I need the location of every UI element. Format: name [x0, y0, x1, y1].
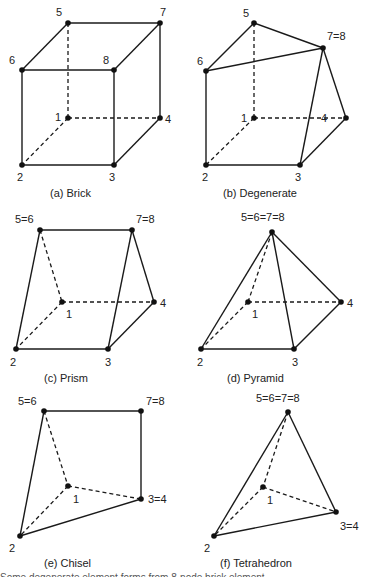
node-3 [111, 162, 117, 168]
label-5-6: 5=6 [15, 213, 34, 225]
element-forms-diagram: 5 7 6 8 1 4 2 3 (a) Brick 5 7=8 6 1 4 2 [0, 0, 366, 582]
label-2: 2 [10, 356, 16, 368]
panel-prism: 5=6 7=8 1 4 2 3 (c) Prism [10, 213, 166, 384]
label-5-6: 5=6 [18, 395, 37, 407]
node-4 [157, 115, 163, 121]
label-2: 2 [9, 542, 15, 554]
label-2: 2 [202, 171, 208, 183]
label-7: 7 [160, 6, 166, 18]
node-6 [19, 67, 25, 73]
caption-degenerate: (b) Degenerate [223, 187, 297, 199]
label-3: 3 [295, 171, 301, 183]
label-7-8: 7=8 [327, 30, 346, 42]
panel-tetrahedron: 5=6=7=8 1 3=4 2 (f) Tetrahedron [204, 392, 359, 569]
label-2: 2 [204, 542, 210, 554]
label-4: 4 [160, 297, 166, 309]
label-3: 3 [109, 171, 115, 183]
label-8: 8 [103, 54, 109, 66]
label-6: 6 [197, 55, 203, 67]
label-3: 3 [105, 356, 111, 368]
label-3: 3 [292, 356, 298, 368]
label-3-4: 3=4 [148, 493, 167, 505]
caption-tetrahedron: (f) Tetrahedron [220, 557, 292, 569]
label-1: 1 [267, 494, 273, 506]
label-1: 1 [73, 493, 79, 505]
label-1: 1 [55, 111, 61, 123]
panel-chisel: 5=6 7=8 1 3=4 2 (e) Chisel [9, 395, 167, 569]
label-5-6-7-8: 5=6=7=8 [241, 211, 285, 223]
label-2: 2 [17, 171, 23, 183]
label-4: 4 [165, 113, 171, 125]
label-7-8: 7=8 [136, 213, 155, 225]
node-2 [19, 162, 25, 168]
node-5 [65, 20, 71, 26]
label-5: 5 [56, 6, 62, 18]
caption-pyramid: (d) Pyramid [227, 372, 284, 384]
label-5-6-7-8: 5=6=7=8 [256, 392, 300, 404]
label-4: 4 [321, 112, 327, 124]
label-1: 1 [66, 308, 72, 320]
label-3-4: 3=4 [340, 520, 359, 532]
label-5: 5 [243, 7, 249, 19]
label-4: 4 [347, 297, 353, 309]
caption-chisel: (e) Chisel [44, 557, 91, 569]
label-7-8: 7=8 [146, 395, 165, 407]
node-1 [65, 115, 71, 121]
caption-prism: (c) Prism [44, 372, 88, 384]
panel-degenerate: 5 7=8 6 1 4 2 3 (b) Degenerate [197, 7, 349, 199]
label-1: 1 [252, 308, 258, 320]
label-2: 2 [197, 356, 203, 368]
node-7 [157, 20, 163, 26]
panel-brick: 5 7 6 8 1 4 2 3 (a) Brick [9, 6, 171, 199]
label-1: 1 [241, 112, 247, 124]
node-8 [111, 67, 117, 73]
caption-brick: (a) Brick [50, 187, 91, 199]
panel-pyramid: 5=6=7=8 1 4 2 3 (d) Pyramid [197, 211, 353, 384]
label-6: 6 [9, 54, 15, 66]
